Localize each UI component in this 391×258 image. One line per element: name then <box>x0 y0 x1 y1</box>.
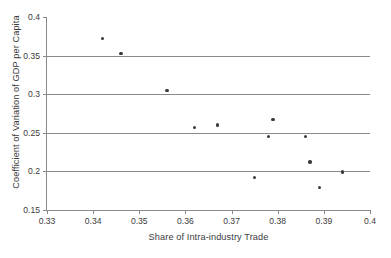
y-tick-label: 0.4 <box>28 12 40 22</box>
x-tick-label: 0.39 <box>315 216 332 226</box>
gridline-y <box>47 133 370 134</box>
scatter-point <box>267 135 270 138</box>
scatter-point <box>308 160 311 163</box>
y-tick-mark <box>43 17 47 18</box>
x-tick-mark <box>278 210 279 214</box>
y-tick-label: 0.15 <box>23 205 40 215</box>
x-tick-label: 0.4 <box>364 216 376 226</box>
scatter-point <box>341 170 344 173</box>
scatter-point <box>253 176 256 179</box>
y-tick-label: 0.25 <box>23 128 40 138</box>
scatter-chart-figure: Coefficient of Variation of GDP per Capi… <box>0 0 391 258</box>
x-tick-mark <box>232 210 233 214</box>
x-axis-line <box>46 210 370 211</box>
y-tick-mark <box>43 171 47 172</box>
scatter-point <box>101 37 104 40</box>
x-tick-mark <box>324 210 325 214</box>
x-tick-mark <box>185 210 186 214</box>
x-tick-mark <box>93 210 94 214</box>
x-tick-mark <box>47 210 48 214</box>
scatter-point <box>165 89 168 92</box>
gridline-y <box>47 171 370 172</box>
x-tick-label: 0.35 <box>131 216 148 226</box>
y-tick-label: 0.2 <box>28 166 40 176</box>
y-tick-label: 0.3 <box>28 89 40 99</box>
y-tick-mark <box>43 94 47 95</box>
scatter-point <box>271 118 274 121</box>
x-tick-label: 0.38 <box>269 216 286 226</box>
x-tick-label: 0.37 <box>223 216 240 226</box>
scatter-point <box>304 135 307 138</box>
y-tick-mark <box>43 56 47 57</box>
scatter-point <box>119 52 122 55</box>
scatter-point <box>193 126 196 129</box>
scatter-point <box>216 123 219 126</box>
gridline-y <box>47 94 370 95</box>
x-tick-label: 0.36 <box>177 216 194 226</box>
x-tick-label: 0.34 <box>85 216 102 226</box>
plot-area: 0.150.20.250.30.350.4 0.330.340.350.360.… <box>47 17 370 210</box>
x-tick-mark <box>370 210 371 214</box>
x-tick-label: 0.33 <box>39 216 56 226</box>
y-axis-title: Coefficient of Variation of GDP per Capi… <box>11 2 21 202</box>
gridline-y <box>47 56 370 57</box>
y-axis-line <box>46 17 47 210</box>
y-tick-mark <box>43 133 47 134</box>
x-tick-mark <box>139 210 140 214</box>
x-axis-title: Share of Intra-industry Trade <box>47 232 370 242</box>
y-tick-label: 0.35 <box>23 51 40 61</box>
scatter-point <box>318 186 321 189</box>
